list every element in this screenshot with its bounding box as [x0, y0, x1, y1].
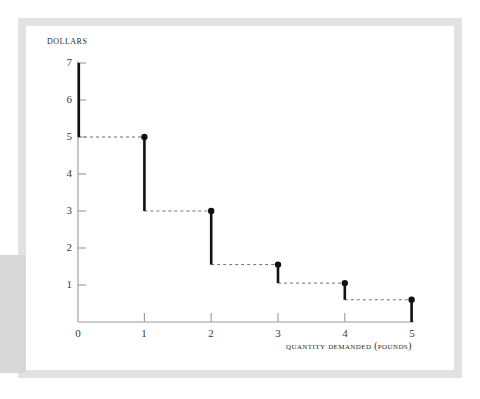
step-dashes-group — [78, 137, 412, 300]
x-tick-label-1: 1 — [134, 327, 154, 339]
x-tick-label-4: 4 — [335, 327, 355, 339]
x-tick-label-0: 0 — [68, 327, 88, 339]
x-tick-label-5: 5 — [402, 327, 422, 339]
step-dot-x4 — [342, 280, 348, 286]
y-tick-label-6: 6 — [52, 93, 72, 105]
step-dot-x5 — [408, 297, 414, 303]
y-axis-title: Dollars — [47, 34, 87, 46]
x-tick-label-2: 2 — [201, 327, 221, 339]
x-tick-label-3: 3 — [268, 327, 288, 339]
y-tick-label-3: 3 — [52, 204, 72, 216]
demand-step-chart: Dollars Quantity demanded (pounds) 7 6 5… — [0, 0, 480, 399]
axes-group — [78, 61, 414, 322]
x-axis-title: Quantity demanded (pounds) — [286, 341, 412, 351]
y-tick-label-4: 4 — [52, 167, 72, 179]
y-tick-label-5: 5 — [52, 130, 72, 142]
y-tick-label-1: 1 — [52, 278, 72, 290]
chart-svg — [0, 0, 480, 399]
figure-page: Dollars Quantity demanded (pounds) 7 6 5… — [0, 0, 480, 399]
step-dot-x1 — [141, 134, 147, 140]
y-tick-label-7: 7 — [52, 56, 72, 68]
step-dot-x3 — [275, 261, 281, 267]
y-tick-label-2: 2 — [52, 241, 72, 253]
step-bars-group — [79, 63, 412, 322]
x-ticks-group — [144, 313, 411, 322]
step-dot-x2 — [208, 208, 214, 214]
